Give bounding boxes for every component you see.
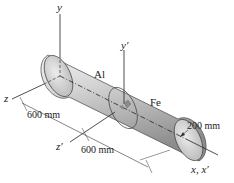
z-axis <box>12 84 44 99</box>
composite-shaft-diagram <box>0 0 234 183</box>
dim-ext-al-left <box>20 97 27 111</box>
y-prime-axis-label: y′ <box>121 40 128 51</box>
dim-ext-fe-mid <box>140 150 170 160</box>
y-axis-label: y <box>57 2 62 13</box>
al-material-label: Al <box>94 69 105 80</box>
z-axis-label: z <box>4 93 8 104</box>
z-prime-axis-label: z′ <box>56 141 63 152</box>
fe-material-label: Fe <box>150 97 161 108</box>
z-prime-axis <box>70 112 115 142</box>
fe-length-dimension: 600 mm <box>81 145 114 155</box>
x-axis-label: x, x′ <box>191 164 209 175</box>
diameter-dimension: 200 mm <box>187 121 220 131</box>
al-length-dimension: 600 mm <box>27 110 60 120</box>
